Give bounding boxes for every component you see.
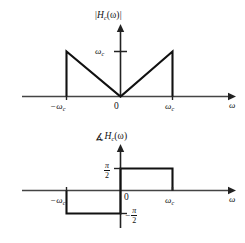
phase-x-tick-label-origin: 0 [124,193,129,203]
pi-over-two-fraction: π 2 [131,207,137,225]
angle-icon: ∡ [95,132,104,142]
magnitude-chart-title: |Hc(ω)| [95,11,122,21]
magnitude-x-tick-label-positive: ωc [165,102,174,112]
pi-over-two-fraction: π 2 [104,162,110,180]
phase-x-tick-label-negative: −ωc [50,196,65,206]
phase-x-tick-label-positive: ωc [165,196,174,206]
magnitude-x-axis-label: ω [229,101,235,110]
magnitude-y-tick-label: ωc [95,47,104,57]
phase-y-tick-label-negative: − π 2 [125,207,137,225]
magnitude-response-trace [67,52,173,97]
phase-chart-title: ∡Hc(ω) [95,131,127,142]
magnitude-x-tick-label-origin: 0 [114,102,119,112]
magnitude-y-axis-arrowhead [117,24,124,32]
figure-container: |Hc(ω)| ωc −ωc 0 ωc ω ∡Hc(ω) π 2 − π 2 −… [0,0,245,243]
negative-pi-over-two: − π 2 [125,207,137,225]
magnitude-response-plot [22,24,236,100]
magnitude-x-tick-label-negative: −ωc [50,102,65,112]
phase-y-tick-label-positive: π 2 [104,162,110,180]
figure-plot-canvas [0,0,245,243]
phase-x-axis-label: ω [229,195,235,204]
phase-y-axis-arrowhead [117,144,124,152]
